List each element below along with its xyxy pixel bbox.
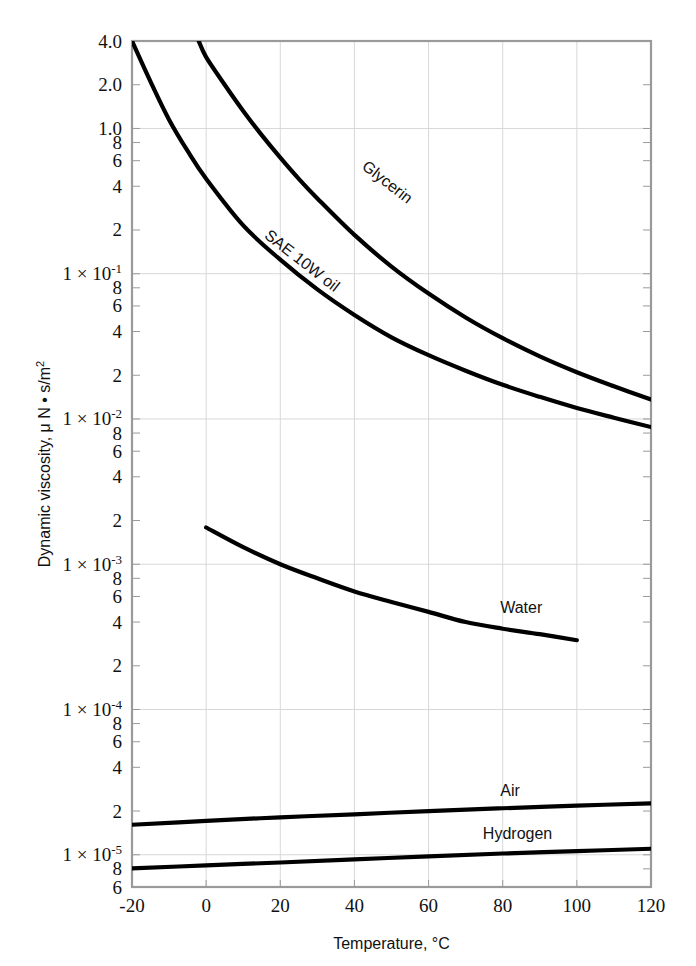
y-tick-label: 4.0: [98, 31, 122, 52]
x-tick-label: 100: [563, 895, 592, 916]
y-tick-label-text: 2.0: [98, 74, 122, 95]
y-tick-label-text: 6: [113, 731, 123, 752]
y-tick-label: 6: [113, 731, 123, 752]
y-tick-label: 4: [113, 757, 123, 778]
x-tick-label: 80: [493, 895, 512, 916]
y-tick-label-text: 2: [113, 655, 123, 676]
y-tick-label: 2: [113, 365, 123, 386]
chart-background: [0, 0, 696, 966]
y-tick-label-text: 6: [113, 586, 123, 607]
y-tick-label: 6: [113, 441, 123, 462]
curve-label-hydrogen: Hydrogen: [483, 825, 552, 842]
viscosity-chart-page: 4.02.01.086421 × 10-186421 × 10-286421 ×…: [0, 0, 696, 966]
curve-label-air: Air: [500, 782, 520, 799]
dynamic-viscosity-vs-temperature-chart: 4.02.01.086421 × 10-186421 × 10-286421 ×…: [0, 0, 696, 966]
y-tick-label: 2: [113, 655, 123, 676]
x-tick-label: 40: [345, 895, 364, 916]
y-tick-label: 4: [113, 176, 123, 197]
x-axis-title: Temperature, °C: [333, 935, 450, 952]
y-tick-exponent: -2: [111, 406, 122, 421]
y-tick-label-text: 4: [113, 757, 123, 778]
y-tick-label-text: 2: [113, 365, 123, 386]
x-tick-label: 20: [271, 895, 290, 916]
y-tick-exponent: -1: [111, 261, 122, 276]
y-tick-exponent: -4: [111, 697, 122, 712]
y-tick-label: 6: [113, 586, 123, 607]
curve-label-text: Air: [500, 782, 520, 799]
x-tick-label: -20: [119, 895, 144, 916]
y-tick-label-text: 6: [113, 441, 123, 462]
y-tick-label: 4: [113, 612, 123, 633]
curve-label-text: Water: [500, 599, 543, 616]
y-tick-label-text: 2: [113, 219, 123, 240]
y-tick-exponent: -3: [111, 552, 122, 567]
y-axis-title: Dynamic viscosity, μ N • s/m2: [34, 361, 53, 567]
curve-label-text: Hydrogen: [483, 825, 552, 842]
y-tick-label-text: 6: [113, 150, 123, 171]
y-tick-label: 6: [113, 150, 123, 171]
x-tick-label: 120: [637, 895, 666, 916]
curve-label-water: Water: [500, 599, 543, 616]
y-tick-exponent: -5: [111, 842, 122, 857]
y-tick-label-text: 4: [113, 612, 123, 633]
y-tick-label: 2: [113, 801, 123, 822]
y-axis-title-exponent: 2: [34, 361, 46, 367]
y-tick-label-text: 2: [113, 510, 123, 531]
y-tick-label-text: 4: [113, 176, 123, 197]
y-tick-label: 2.0: [98, 74, 122, 95]
y-tick-label-text: 2: [113, 801, 123, 822]
y-tick-label: 4: [113, 466, 123, 487]
y-tick-label: 2: [113, 219, 123, 240]
y-tick-label-text: 4.0: [98, 31, 122, 52]
x-tick-label: 0: [201, 895, 211, 916]
y-tick-label-text: 4: [113, 466, 123, 487]
y-tick-label: 4: [113, 321, 123, 342]
y-tick-label-text: 4: [113, 321, 123, 342]
y-tick-label: 2: [113, 510, 123, 531]
y-tick-label-text: 6: [113, 295, 123, 316]
y-tick-label: 6: [113, 295, 123, 316]
x-tick-label: 60: [419, 895, 438, 916]
